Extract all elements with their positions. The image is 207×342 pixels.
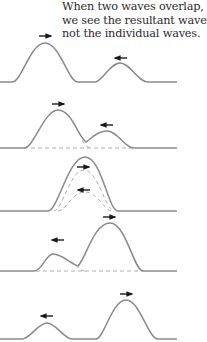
panel-4 [0,217,177,271]
panel-5-wave [0,300,177,339]
panel-3 [0,157,177,211]
panel-4-wave [0,223,177,271]
panel-2 [0,104,177,148]
panel-3-left-pulse-dashed [58,192,112,211]
superposition-diagram [0,0,207,342]
panel-5 [0,294,177,339]
panel-3-resultant-wave [0,157,177,211]
panel-1-wave [0,43,177,82]
panel-2-wave [0,110,177,148]
panel-1 [0,36,177,82]
